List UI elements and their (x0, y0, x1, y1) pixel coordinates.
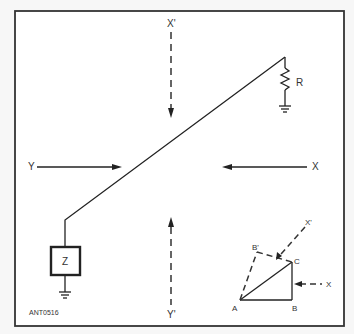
antenna-diagram: R Z X' Y' Y X X' X A (0, 0, 354, 334)
impedance-label: Z (62, 256, 68, 267)
vertex-c-label: C (294, 257, 300, 266)
resistor-label: R (296, 77, 303, 88)
inset-x-label: X (326, 280, 332, 289)
wave-y-left-label: Y (28, 161, 35, 172)
vertex-b-label: B (292, 304, 297, 313)
vertex-b-prime-label: B' (252, 243, 259, 252)
wave-x-prime-top-label: X' (167, 18, 176, 29)
inset-x-prime-label: X' (305, 218, 312, 227)
wave-x-right-label: X (312, 161, 319, 172)
figure-id-label: ANT0516 (29, 309, 59, 316)
vertex-a-label: A (232, 304, 238, 313)
wave-y-prime-bottom-label: Y' (167, 309, 176, 320)
